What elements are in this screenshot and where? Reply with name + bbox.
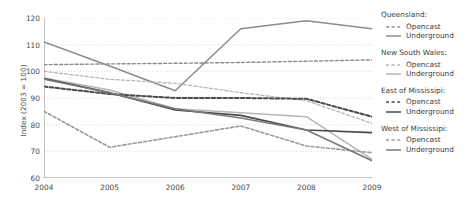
x-tick-label: 2007 <box>231 183 250 192</box>
legend-group-title: New South Wales: <box>381 48 467 57</box>
legend-item[interactable]: Underground <box>385 69 467 79</box>
legend-item-label: Underground <box>406 107 454 116</box>
y-tick-label: 120 <box>26 14 40 23</box>
legend-item[interactable]: Underground <box>385 145 467 155</box>
series-canvas <box>44 18 372 178</box>
legend-group-title: West of Mississipi: <box>381 124 467 133</box>
legend-group-title: Queensland: <box>381 10 467 19</box>
solid-line-icon <box>385 69 402 78</box>
plot-area <box>44 18 372 178</box>
series-line-6 <box>44 111 372 152</box>
legend-item-label: Underground <box>406 69 454 78</box>
legend-item[interactable]: Opencast <box>385 21 467 31</box>
legend-item[interactable]: Underground <box>385 31 467 41</box>
legend-item-label: Opencast <box>406 97 441 106</box>
dashed-line-icon <box>385 60 402 69</box>
y-tick-label: 80 <box>31 120 40 129</box>
y-axis-tick-labels: 60708090100110120 <box>14 18 40 178</box>
y-tick-label: 60 <box>31 174 40 183</box>
series-line-1 <box>44 21 372 91</box>
legend-item[interactable]: Opencast <box>385 97 467 107</box>
x-tick-label: 2005 <box>100 183 119 192</box>
x-tick-label: 2009 <box>363 183 382 192</box>
y-tick-label: 110 <box>26 40 40 49</box>
legend-item[interactable]: Underground <box>385 107 467 117</box>
legend-group-title: East of Mississipi: <box>381 86 467 95</box>
x-tick-label: 2004 <box>35 183 54 192</box>
y-tick-label: 90 <box>31 94 40 103</box>
solid-line-icon <box>385 107 402 116</box>
legend-group-2: East of Mississipi:OpencastUnderground <box>381 86 467 116</box>
legend-item-label: Underground <box>406 145 454 154</box>
legend-group-1: New South Wales:OpencastUnderground <box>381 48 467 78</box>
legend-item[interactable]: Opencast <box>385 59 467 69</box>
y-tick-label: 70 <box>31 147 40 156</box>
legend-item-label: Underground <box>406 31 454 40</box>
solid-line-icon <box>385 145 402 154</box>
legend-group-0: Queensland:OpencastUnderground <box>381 10 467 40</box>
line-chart: Index (2003 = 100) 60708090100110120 200… <box>0 0 468 215</box>
dashed-line-icon <box>385 22 402 31</box>
x-axis-tick-labels: 200420052006200720082009 <box>44 178 372 196</box>
legend-item[interactable]: Opencast <box>385 135 467 145</box>
legend-group-3: West of Mississipi:OpencastUnderground <box>381 124 467 154</box>
legend-item-label: Opencast <box>406 22 441 31</box>
legend-item-label: Opencast <box>406 60 441 69</box>
x-tick-label: 2008 <box>297 183 316 192</box>
y-tick-label: 100 <box>26 67 40 76</box>
solid-line-icon <box>385 31 402 40</box>
dashed-line-icon <box>385 97 402 106</box>
legend-item-label: Opencast <box>406 135 441 144</box>
chart-legend: Queensland:OpencastUndergroundNew South … <box>381 10 467 162</box>
dashed-line-icon <box>385 135 402 144</box>
x-tick-label: 2006 <box>166 183 185 192</box>
